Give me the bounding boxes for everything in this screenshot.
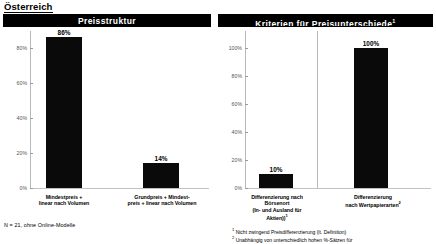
panel-title-kriterien: Kriterien für Preisunterschiede1	[218, 14, 433, 27]
bar-value-label: 86%	[58, 29, 71, 36]
bar: 14%	[143, 163, 179, 188]
x-category-label: Differenzierung nach Wertpapierarten2	[333, 194, 413, 209]
group-divider	[317, 31, 318, 189]
y-tick: 40%	[17, 115, 30, 121]
panel-preisstruktur: Preisstruktur 0% 20% 40% 60% 80% 86% 14%…	[3, 14, 211, 189]
footnote-text: Unabhängig von unterschiedlich hohen %-S…	[236, 237, 353, 243]
y-tick: 40%	[232, 129, 245, 135]
y-tick: 20%	[17, 150, 30, 156]
y-tick: 80%	[232, 73, 245, 79]
x-axis-line	[30, 188, 209, 189]
chart-kriterien: 0% 20% 40% 60% 80% 100% 10% 100%	[218, 31, 433, 189]
y-tick: 80%	[17, 45, 30, 51]
footnote: 1 Nicht zwingend Preisdifferenzierung (l…	[232, 227, 352, 235]
footnote: 2 Unabhängig von unterschiedlich hohen %…	[232, 235, 352, 243]
label-line: linear nach Volumen	[21, 200, 107, 206]
x-axis-line	[245, 188, 431, 189]
bar: 10%	[259, 174, 293, 188]
x-category-label: Mindestpreis + linear nach Volumen	[21, 194, 107, 207]
label-line: Aktien))1	[238, 213, 316, 221]
y-tick: 60%	[17, 80, 30, 86]
sample-size-note: N = 21, ohne Online-Modelle	[4, 222, 75, 228]
bar: 86%	[46, 37, 82, 188]
x-category-label: Differenzierung nach Börsenort (In- und …	[238, 194, 316, 221]
bar-value-label: 10%	[270, 166, 283, 173]
footnote-marker: 1	[232, 227, 234, 232]
panel-title-superscript: 1	[392, 18, 395, 24]
label-line: nach Wertpapierarten2	[333, 200, 413, 208]
y-tick: 60%	[232, 101, 245, 107]
y-tick: 0%	[20, 185, 31, 191]
x-category-label: Grundpreis + Mindest- preis + linear nac…	[115, 194, 209, 207]
page-title: Österreich	[4, 1, 53, 13]
panel-kriterien: Kriterien für Preisunterschiede1 0% 20% …	[218, 14, 433, 189]
label-line: preis + linear nach Volumen	[115, 200, 209, 206]
label-superscript: 1	[286, 213, 288, 218]
y-tick: 0%	[235, 185, 246, 191]
bar-value-label: 100%	[363, 40, 379, 47]
bar: 100%	[354, 48, 388, 188]
panel-title-preisstruktur: Preisstruktur	[3, 14, 211, 27]
y-tick: 100%	[229, 45, 245, 51]
chart-preisstruktur: 0% 20% 40% 60% 80% 86% 14%	[3, 31, 211, 189]
panel-title-text: Kriterien für Preisunterschiede	[255, 19, 392, 27]
y-axis-line	[30, 31, 31, 189]
panel-title-text: Preisstruktur	[78, 16, 136, 26]
footnote-marker: 2	[232, 235, 234, 240]
footnote-text: Nicht zwingend Preisdifferenzierung (lt.…	[236, 229, 347, 235]
footnotes: 1 Nicht zwingend Preisdifferenzierung (l…	[232, 227, 352, 244]
bar-value-label: 14%	[155, 155, 168, 162]
label-superscript: 2	[399, 200, 401, 205]
y-axis-line	[245, 31, 246, 189]
y-tick: 20%	[232, 157, 245, 163]
